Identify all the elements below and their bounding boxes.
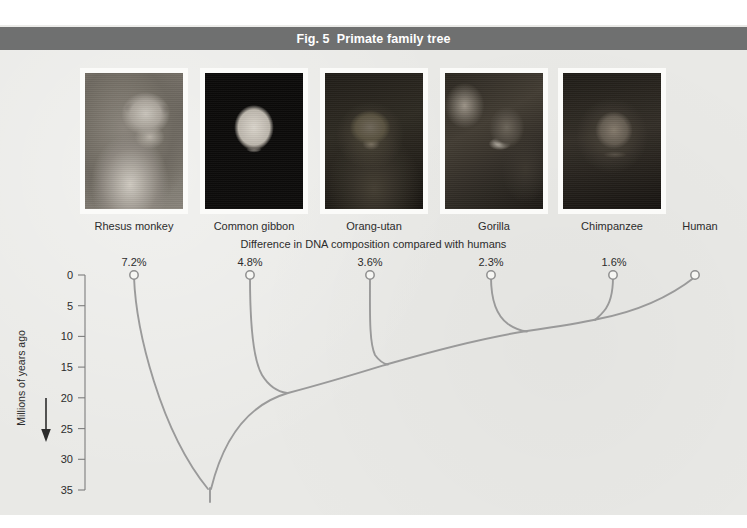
common-gibbon-photo-frame <box>200 68 308 214</box>
common-gibbon-photo <box>205 73 303 209</box>
chimpanzee-photo <box>563 73 661 209</box>
tip-node-human <box>691 271 699 279</box>
gorilla-photo-frame <box>440 68 548 214</box>
rhesus-monkey-photo-frame <box>80 68 188 214</box>
branch-orang-utan <box>370 277 388 365</box>
dna-pct-common-gibbon: 4.8% <box>210 256 290 268</box>
dna-pct-gorilla: 2.3% <box>451 256 531 268</box>
y-tick-20: 20 <box>61 392 73 404</box>
tip-node-common-gibbon <box>246 271 254 279</box>
dna-difference-caption: Difference in DNA composition compared w… <box>0 238 747 250</box>
rhesus-monkey-photo <box>85 73 183 209</box>
tree-branches <box>134 277 695 502</box>
chimpanzee-photo-frame <box>558 68 666 214</box>
primate-family-tree-figure: Fig. 5 Primate family tree Rhesus monkey… <box>0 0 747 528</box>
tip-node-chimpanzee <box>609 271 617 279</box>
primate-photo-strip <box>0 68 747 216</box>
dna-pct-rhesus-monkey: 7.2% <box>94 256 174 268</box>
y-tick-35: 35 <box>61 484 73 496</box>
orang-utan-photo-frame <box>320 68 428 214</box>
branch-rhesus-monkey <box>134 277 208 489</box>
gorilla-photo <box>445 73 543 209</box>
species-label-chimpanzee: Chimpanzee <box>552 220 672 232</box>
y-tick-30: 30 <box>61 453 73 465</box>
figure-title-bar: Fig. 5 Primate family tree <box>0 27 747 50</box>
species-label-orang-utan: Orang-utan <box>314 220 434 232</box>
tree-tip-nodes <box>130 271 699 279</box>
branch-gorilla <box>491 277 527 332</box>
species-label-human: Human <box>665 220 735 232</box>
species-label-rhesus-monkey: Rhesus monkey <box>74 220 194 232</box>
y-axis-tick-labels: 0 5 10 15 20 25 30 35 <box>61 269 73 496</box>
species-label-common-gibbon: Common gibbon <box>194 220 314 232</box>
dna-pct-orang-utan: 3.6% <box>330 256 410 268</box>
tip-node-gorilla <box>487 271 495 279</box>
y-tick-10: 10 <box>61 330 73 342</box>
y-tick-5: 5 <box>67 300 73 312</box>
orang-utan-photo <box>325 73 423 209</box>
species-label-gorilla: Gorilla <box>434 220 554 232</box>
y-tick-25: 25 <box>61 423 73 435</box>
y-tick-0: 0 <box>67 269 73 281</box>
dna-pct-chimpanzee: 1.6% <box>574 256 654 268</box>
branch-chimpanzee <box>595 277 613 320</box>
y-tick-15: 15 <box>61 361 73 373</box>
tip-node-orang-utan <box>366 271 374 279</box>
down-arrow-icon <box>39 398 53 444</box>
tip-node-rhesus-monkey <box>130 271 138 279</box>
y-axis-title: Millions of years ago <box>15 313 27 443</box>
branch-common-gibbon <box>250 277 287 393</box>
page-title: Fig. 5 Primate family tree <box>296 32 450 46</box>
branch-main-trunk <box>211 277 695 489</box>
y-axis <box>78 275 85 490</box>
